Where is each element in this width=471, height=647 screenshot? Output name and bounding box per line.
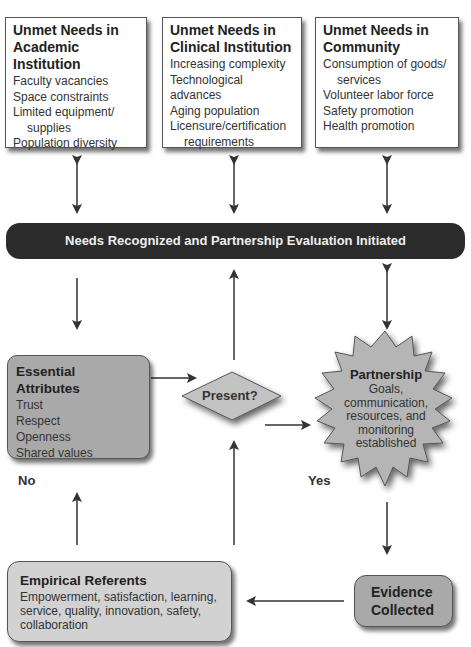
yes-label: Yes: [308, 473, 330, 488]
title-line: Clinical Institution: [170, 39, 295, 56]
partnership-line: Goals,: [338, 383, 434, 397]
title-line: Unmet Needs in: [13, 22, 140, 39]
list-item: Increasing complexity: [170, 57, 295, 73]
title-line: Unmet Needs in: [170, 22, 295, 39]
list-item: requirements: [170, 135, 295, 151]
list-item: Faculty vacancies: [13, 74, 140, 90]
evidence-line: Evidence: [371, 583, 452, 601]
clinical-needs-title: Unmet Needs in Clinical Institution: [170, 22, 295, 56]
list-item: Technological advances: [170, 73, 295, 104]
empirical-referents-title: Empirical Referents: [20, 572, 223, 590]
clinical-needs-box: Unmet Needs in Clinical Institution Incr…: [162, 17, 302, 148]
list-item: Population diversity: [13, 136, 140, 152]
list-item: Consumption of goods/: [323, 57, 452, 73]
evidence-line: Collected: [371, 601, 452, 619]
title-line: Academic Institution: [13, 39, 140, 73]
list-item: Limited equipment/: [13, 105, 140, 121]
list-item: Respect: [16, 413, 141, 429]
list-item: supplies: [13, 121, 140, 137]
list-item: Space constraints: [13, 90, 140, 106]
list-item: Openness: [16, 429, 141, 445]
empirical-line: Empowerment, satisfaction, learning,: [20, 590, 223, 604]
essential-attributes-box: Essential Attributes Trust Respect Openn…: [7, 355, 150, 459]
community-needs-title: Unmet Needs in Community: [323, 22, 452, 56]
present-label: Present?: [202, 388, 258, 403]
list-item: Safety promotion: [323, 104, 452, 120]
title-line: Community: [323, 39, 452, 56]
partnership-line: communication,: [338, 397, 434, 411]
list-item: services: [323, 73, 452, 89]
essential-attributes-title: Essential Attributes: [16, 363, 141, 397]
partnership-title: Partnership: [338, 367, 434, 383]
partnership-line: monitoring: [338, 424, 434, 438]
empirical-line: collaboration: [20, 618, 223, 632]
academic-needs-title: Unmet Needs in Academic Institution: [13, 22, 140, 73]
community-needs-box: Unmet Needs in Community Consumption of …: [315, 17, 459, 148]
no-label: No: [18, 473, 35, 488]
evidence-collected-box: Evidence Collected: [354, 575, 453, 627]
partnership-line: established: [338, 437, 434, 451]
empirical-referents-box: Empirical Referents Empowerment, satisfa…: [7, 561, 232, 642]
partnership-line: resources, and: [338, 410, 434, 424]
list-item: Trust: [16, 397, 141, 413]
partnership-text: Partnership Goals, communication, resour…: [338, 367, 434, 451]
empirical-line: service, quality, innovation, safety,: [20, 604, 223, 618]
list-item: Licensure/certification: [170, 119, 295, 135]
list-item: Shared values: [16, 445, 141, 461]
title-line: Unmet Needs in: [323, 22, 452, 39]
needs-recognized-bar: Needs Recognized and Partnership Evaluat…: [6, 223, 465, 259]
list-item: Health promotion: [323, 119, 452, 135]
list-item: Volunteer labor force: [323, 88, 452, 104]
list-item: Aging population: [170, 104, 295, 120]
academic-needs-box: Unmet Needs in Academic Institution Facu…: [5, 17, 147, 148]
